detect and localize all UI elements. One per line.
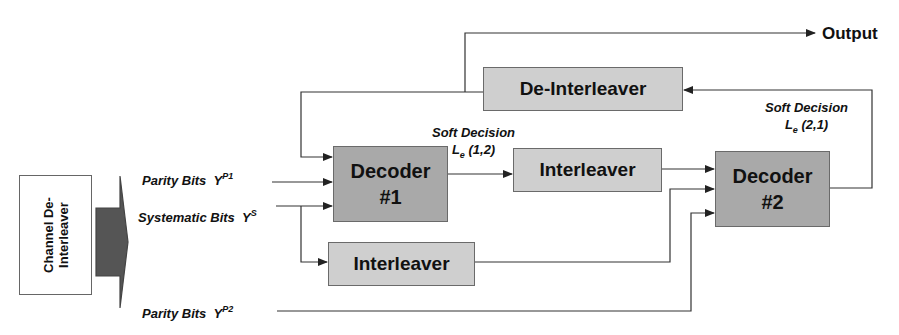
deinterleaver-block: De-Interleaver <box>483 67 683 111</box>
soft-decision-le21-label: Soft Decision Le (2,1) <box>765 99 848 139</box>
interleaver-upper-block: Interleaver <box>513 148 662 192</box>
interleaver-lower-block: Interleaver <box>328 242 475 286</box>
parity-bits-p1-label: Parity Bits YP1 <box>142 171 233 188</box>
decoder-2-block: Decoder #2 <box>715 151 830 227</box>
systematic-bits-label: Systematic Bits YS <box>138 208 257 225</box>
channel-deinterleaver-label: Channel De- Interleaver <box>41 197 71 273</box>
channel-output-arrow <box>96 176 128 308</box>
decoder-1-block: Decoder #1 <box>333 146 448 222</box>
output-label: Output <box>822 24 878 44</box>
parity-bits-p2-label: Parity Bits YP2 <box>142 304 233 321</box>
soft-decision-le12-label: Soft Decision Le (1,2) <box>432 124 515 164</box>
channel-deinterleaver-block: Channel De- Interleaver <box>19 175 92 295</box>
